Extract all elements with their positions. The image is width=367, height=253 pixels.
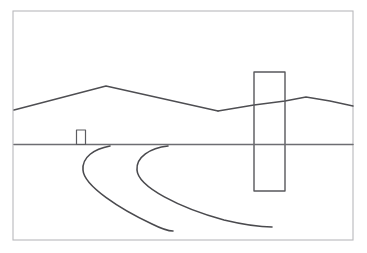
paper-background <box>0 0 367 253</box>
landscape-sketch <box>0 0 367 253</box>
sketch-canvas-stage <box>0 0 367 253</box>
